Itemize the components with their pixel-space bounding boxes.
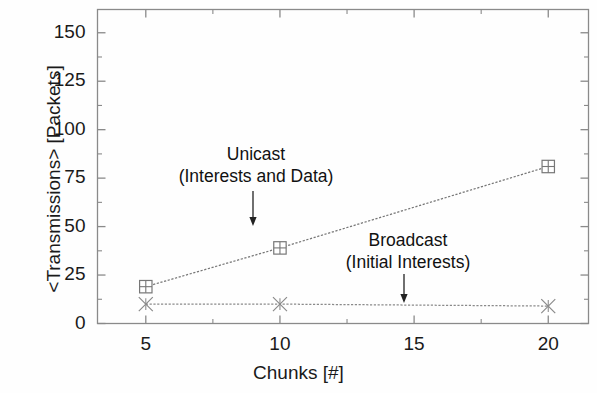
x-tick-label: 20: [518, 333, 578, 355]
arrow-head: [249, 217, 256, 226]
y-tick-label: 100: [26, 118, 86, 140]
annotation-unicast-line1: Unicast: [106, 143, 406, 165]
series-line-1: [146, 304, 548, 306]
annotation-unicast: Unicast (Interests and Data): [106, 143, 406, 188]
data-point-0-2: [542, 160, 554, 172]
data-point-0-0: [140, 280, 152, 292]
x-tick-label: 5: [116, 333, 176, 355]
y-tick-label: 25: [26, 263, 86, 285]
chart-figure: <Transmissions> [Packets] Chunks [#] 025…: [0, 0, 597, 393]
annotation-arrow-broadcast: [400, 274, 407, 303]
y-tick-label: 150: [26, 21, 86, 43]
x-tick-label: 15: [384, 333, 444, 355]
y-tick-label: 75: [26, 166, 86, 188]
y-tick-label: 0: [26, 312, 86, 334]
annotation-broadcast-line2: (Initial Interests): [258, 251, 558, 273]
x-tick-label: 10: [250, 333, 310, 355]
annotation-arrow-unicast: [249, 191, 256, 226]
x-axis-label: Chunks [#]: [0, 362, 597, 384]
annotation-unicast-line2: (Interests and Data): [106, 165, 406, 187]
arrow-head: [400, 294, 407, 303]
annotation-broadcast: Broadcast (Initial Interests): [258, 229, 558, 274]
y-tick-label: 50: [26, 215, 86, 237]
data-point-1-2: [541, 299, 555, 313]
annotation-broadcast-line1: Broadcast: [258, 229, 558, 251]
y-tick-label: 125: [26, 69, 86, 91]
